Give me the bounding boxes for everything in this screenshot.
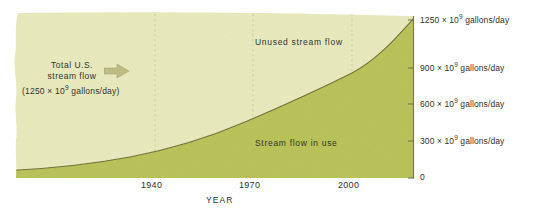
y-tick-label-0: 0 xyxy=(420,172,425,183)
y-tick-label-300: 300 × 109 gallons/day xyxy=(420,136,504,147)
x-tick-label-1940: 1940 xyxy=(141,180,162,191)
figure-container: 1250 × 109 gallons/day 900 × 109 gallons… xyxy=(0,0,535,214)
series-label-unused-stream-flow: Unused stream flow xyxy=(255,37,343,48)
callout-total-us-line1: Total U.S. xyxy=(43,60,101,71)
series-label-stream-flow-in-use: Stream flow in use xyxy=(255,138,338,149)
x-axis-title: YEAR xyxy=(206,195,234,206)
callout-total-us-value: (1250 × 109 gallons/day) xyxy=(22,86,120,97)
y-tick-label-600: 600 × 109 gallons/day xyxy=(420,99,504,110)
y-tick-label-1250: 1250 × 109 gallons/day xyxy=(420,15,509,26)
x-tick-label-2000: 2000 xyxy=(338,180,359,191)
callout-total-us-line2: stream flow xyxy=(43,71,101,82)
arrow-right-icon xyxy=(104,63,130,79)
x-tick-label-1970: 1970 xyxy=(239,180,260,191)
arrow-right-glyph xyxy=(104,63,130,79)
y-tick-label-900: 900 × 109 gallons/day xyxy=(420,63,504,74)
